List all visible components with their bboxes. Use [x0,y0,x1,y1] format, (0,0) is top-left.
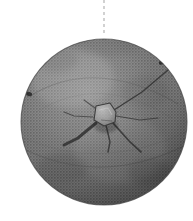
figure-container [0,0,193,221]
disc-artifact-photograph [0,0,193,221]
halftone-grain-overlay [21,39,187,205]
